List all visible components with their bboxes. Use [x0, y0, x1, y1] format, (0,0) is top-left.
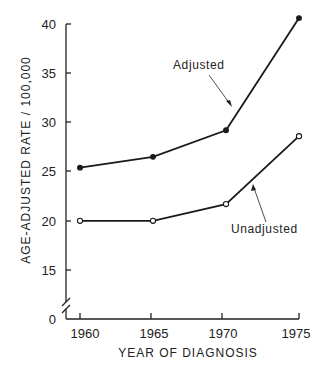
arrowhead-icon [251, 184, 256, 191]
data-point-unadjusted [296, 134, 301, 139]
data-point-unadjusted [77, 218, 82, 223]
data-point-adjusted [151, 154, 156, 159]
x-axis [66, 313, 299, 319]
annotation-adjusted: Adjusted [173, 58, 232, 107]
series-line-unadjusted [80, 136, 299, 221]
annotation-label-unadjusted: Unadjusted [231, 222, 298, 236]
data-point-adjusted [224, 128, 229, 133]
x-tick-label: 1975 [282, 326, 311, 341]
arrowhead-icon [226, 100, 232, 107]
annotation-label-adjusted: Adjusted [173, 58, 225, 72]
y-tick-label: 15 [42, 263, 56, 278]
annotation-unadjusted: Unadjusted [231, 184, 298, 236]
line-chart: 40 35 30 25 20 15 0 1960 1965 1970 1975 … [0, 0, 324, 372]
y-tick-label: 35 [42, 66, 56, 81]
x-tick-label: 1970 [209, 326, 238, 341]
x-tick-labels: 1960 1965 1970 1975 [71, 326, 311, 341]
data-point-adjusted [297, 16, 302, 21]
y-tick-label: 20 [42, 214, 56, 229]
y-tick-labels: 40 35 30 25 20 15 0 [42, 17, 56, 327]
data-point-unadjusted [223, 201, 228, 206]
x-tick-label: 1965 [140, 326, 169, 341]
y-tick-label: 40 [42, 17, 56, 32]
y-axis-title: AGE-ADJUSTED RATE / 100,000 [19, 56, 33, 264]
series-line-adjusted [80, 18, 299, 168]
data-point-unadjusted [150, 218, 155, 223]
x-tick-label: 1960 [71, 326, 100, 341]
y-tick-label: 25 [42, 164, 56, 179]
data-point-adjusted [78, 165, 83, 170]
y-axis [62, 24, 71, 319]
y-tick-label: 30 [42, 115, 56, 130]
y-tick-label: 0 [49, 312, 56, 327]
x-axis-title: YEAR OF DIAGNOSIS [118, 346, 258, 360]
series-layer [77, 16, 301, 224]
